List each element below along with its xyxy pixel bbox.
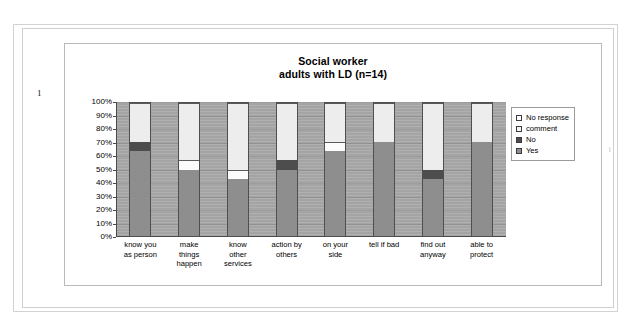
bar-segment-no-response <box>423 103 443 170</box>
bar-segment-yes <box>472 142 492 236</box>
x-axis-tick-label: know you as person <box>116 240 165 269</box>
y-axis-tick-label: 70% <box>68 139 112 147</box>
legend-label: comment <box>526 124 557 133</box>
page-margin-mark-left: 1 <box>37 88 42 98</box>
legend-item[interactable]: No <box>516 134 569 145</box>
bar-segment-no-response <box>179 103 199 160</box>
bar-segment-no-response <box>374 103 394 142</box>
bar-segment-no <box>130 142 150 151</box>
bar-segment-yes <box>325 151 345 236</box>
legend-swatch-icon <box>516 137 522 143</box>
legend-item[interactable]: comment <box>516 123 569 134</box>
bar-segment-no-response <box>130 103 150 142</box>
chart-title-line-2: adults with LD (n=14) <box>65 68 601 81</box>
stacked-bar[interactable] <box>129 102 151 237</box>
y-axis-tick-label: 80% <box>68 125 112 133</box>
x-axis-tick-label: tell if bad <box>360 240 409 269</box>
y-axis-tick-label: 60% <box>68 152 112 160</box>
stacked-bar[interactable] <box>471 102 493 237</box>
bar-segment-yes <box>423 179 443 236</box>
bar-slot <box>360 102 409 237</box>
legend-swatch-icon <box>516 126 522 132</box>
plot-area-wrapper: 100%90%80%70%60%50%40%30%20%10%0% <box>116 102 506 237</box>
bar-segment-yes <box>130 151 150 236</box>
stacked-bar[interactable] <box>276 102 298 237</box>
bar-slot <box>311 102 360 237</box>
stacked-bar[interactable] <box>178 102 200 237</box>
bar-segment-no-response <box>472 103 492 142</box>
stacked-bar[interactable] <box>324 102 346 237</box>
x-axis-tick-label: action by others <box>262 240 311 269</box>
stacked-bar[interactable] <box>227 102 249 237</box>
legend-item[interactable]: No response <box>516 112 569 123</box>
y-axis-tick-label: 0% <box>68 233 112 241</box>
y-axis-tick-label: 30% <box>68 193 112 201</box>
x-axis-tick-label: find out anyway <box>409 240 458 269</box>
bar-slot <box>457 102 506 237</box>
bar-slot <box>116 102 165 237</box>
bar-segment-yes <box>277 170 297 237</box>
bar-segment-comment <box>325 142 345 151</box>
bar-slot <box>262 102 311 237</box>
x-axis-labels: know you as personmake things happenknow… <box>116 240 506 269</box>
bar-slot <box>165 102 214 237</box>
bar-segment-yes <box>374 142 394 236</box>
stacked-bar[interactable] <box>373 102 395 237</box>
x-axis-tick-label: know other services <box>214 240 263 269</box>
bar-segment-no <box>277 160 297 169</box>
legend-label: No <box>526 135 536 144</box>
legend-swatch-icon <box>516 148 522 154</box>
bar-group <box>116 102 506 237</box>
bar-segment-comment <box>228 170 248 179</box>
bar-segment-comment <box>179 160 199 169</box>
bar-segment-no-response <box>325 103 345 142</box>
x-axis-tick-label: able to protect <box>457 240 506 269</box>
legend-swatch-icon <box>516 115 522 121</box>
bar-segment-yes <box>179 170 199 237</box>
bar-segment-yes <box>228 179 248 236</box>
y-axis-tick-mark <box>113 237 116 238</box>
chart-title-line-1: Social worker <box>65 55 601 68</box>
page-margin-mark-right: | <box>609 146 610 152</box>
legend-item[interactable]: Yes <box>516 145 569 156</box>
y-axis-tick-label: 50% <box>68 166 112 174</box>
y-axis-tick-label: 10% <box>68 220 112 228</box>
y-axis-tick-label: 90% <box>68 112 112 120</box>
bar-segment-no-response <box>228 103 248 170</box>
x-axis-tick-label: make things happen <box>165 240 214 269</box>
bar-segment-no <box>423 170 443 179</box>
chart-title: Social worker adults with LD (n=14) <box>65 55 601 80</box>
chart-legend: No responsecommentNoYes <box>511 107 575 161</box>
legend-label: Yes <box>526 146 538 155</box>
legend-label: No response <box>526 113 569 122</box>
bar-slot <box>214 102 263 237</box>
x-axis-tick-label: on your side <box>311 240 360 269</box>
stacked-bar[interactable] <box>422 102 444 237</box>
y-axis-tick-label: 20% <box>68 206 112 214</box>
bar-slot <box>409 102 458 237</box>
bar-segment-no-response <box>277 103 297 160</box>
y-axis-tick-label: 100% <box>68 98 112 106</box>
y-axis-tick-label: 40% <box>68 179 112 187</box>
chart-container: Social worker adults with LD (n=14) 100%… <box>64 43 602 286</box>
